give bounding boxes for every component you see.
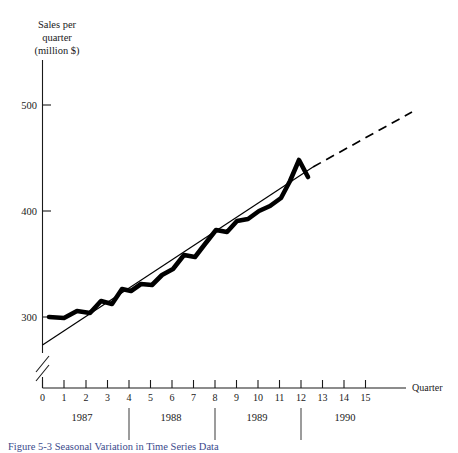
y-axis-title-line-3: (million $) [34, 45, 80, 57]
x-tick-label-12: 12 [296, 392, 306, 403]
data-series-actual-sales [49, 160, 308, 318]
year-label-1989: 1989 [247, 412, 268, 423]
x-tick-label-9: 9 [234, 392, 239, 403]
year-labels: 1987 1988 1989 1990 [72, 412, 356, 423]
x-tick-label-11: 11 [275, 392, 285, 403]
y-tick-label-500: 500 [21, 100, 37, 111]
x-tick-label-13: 13 [318, 392, 328, 403]
x-tick-label-4: 4 [127, 392, 132, 403]
x-tick-label-8: 8 [213, 392, 218, 403]
year-label-1990: 1990 [335, 412, 356, 423]
year-separators [129, 408, 301, 440]
y-tick-label-300: 300 [21, 312, 37, 323]
x-tick-label-3: 3 [105, 392, 110, 403]
y-axis-title-line-2: quarter [42, 32, 72, 43]
trend-line-projection [313, 112, 412, 167]
y-tick-label-400: 400 [21, 206, 37, 217]
y-axis-title-line-1: Sales per [38, 19, 77, 30]
y-axis-ticks: 500 400 300 [21, 100, 51, 323]
figure-caption: Figure 5-3 Seasonal Variation in Time Se… [8, 441, 219, 452]
x-tick-label-5: 5 [148, 392, 153, 403]
x-tick-label-7: 7 [191, 392, 196, 403]
x-tick-label-1: 1 [62, 392, 67, 403]
year-label-1987: 1987 [72, 412, 93, 423]
year-label-1988: 1988 [161, 412, 182, 423]
trend-line-fitted [43, 167, 314, 345]
x-axis-ticks: 0 1 2 3 4 5 6 7 8 9 10 11 12 [40, 380, 371, 403]
x-tick-label-2: 2 [84, 392, 89, 403]
x-tick-label-14: 14 [339, 392, 349, 403]
x-tick-label-0: 0 [40, 392, 45, 403]
x-axis-title: Quarter [412, 382, 443, 393]
time-series-chart: Sales per quarter (million $) 500 400 30… [0, 0, 458, 453]
x-tick-label-15: 15 [361, 392, 371, 403]
x-tick-label-6: 6 [170, 392, 175, 403]
figure-container: Sales per quarter (million $) 500 400 30… [0, 0, 458, 453]
x-tick-label-10: 10 [253, 392, 263, 403]
y-axis-title: Sales per quarter (million $) [34, 19, 80, 57]
